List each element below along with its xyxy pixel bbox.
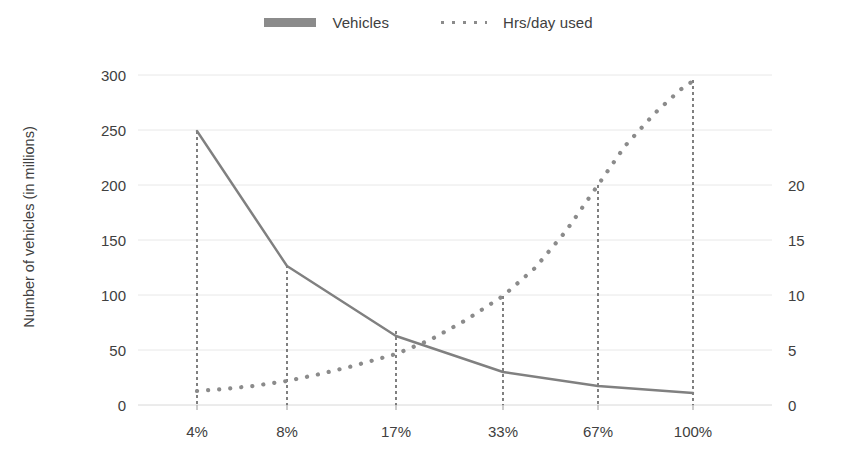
y-tick-300: 300	[101, 67, 126, 84]
y-axis-right-ticks: 20 15 10 5 0	[788, 177, 805, 414]
y2-tick-0: 0	[788, 397, 796, 414]
x-tick-4pct: 4%	[186, 423, 208, 440]
x-tick-17pct: 17%	[381, 423, 411, 440]
y-tick-0: 0	[118, 397, 126, 414]
y-tick-150: 150	[101, 232, 126, 249]
x-tick-33pct: 33%	[488, 423, 518, 440]
series-line-hrs-day-used	[197, 81, 693, 391]
chart-container: Vehicles Hrs/day used Number of vehicles…	[0, 0, 857, 453]
y2-tick-20: 20	[788, 177, 805, 194]
y-axis-left-ticks: 300 250 200 150 100 50 0	[101, 67, 126, 414]
series-line-vehicles	[197, 131, 693, 393]
chart-plot-area: 300 250 200 150 100 50 0 20 15 10 5 0	[0, 0, 857, 453]
y2-tick-15: 15	[788, 232, 805, 249]
y-tick-250: 250	[101, 122, 126, 139]
y-tick-200: 200	[101, 177, 126, 194]
x-tick-8pct: 8%	[276, 423, 298, 440]
y2-tick-5: 5	[788, 342, 796, 359]
y-tick-50: 50	[109, 342, 126, 359]
x-tick-100pct: 100%	[674, 423, 712, 440]
x-axis-ticks: 4% 8% 17% 33% 67% 100%	[186, 423, 712, 440]
x-axis-tickmarks	[197, 405, 693, 410]
y2-tick-10: 10	[788, 287, 805, 304]
x-tick-67pct: 67%	[583, 423, 613, 440]
y-tick-100: 100	[101, 287, 126, 304]
